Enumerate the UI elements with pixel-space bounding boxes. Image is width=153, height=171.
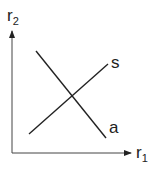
line-a-label: a <box>109 118 119 137</box>
line-s <box>29 64 108 134</box>
diagram-canvas: r2 r1 s a <box>0 0 153 171</box>
diagram-svg: r2 r1 s a <box>0 0 153 171</box>
line-s-label: s <box>111 53 120 72</box>
line-a <box>36 51 106 138</box>
y-axis-label: r2 <box>7 6 19 27</box>
x-axis-label: r1 <box>136 143 148 164</box>
